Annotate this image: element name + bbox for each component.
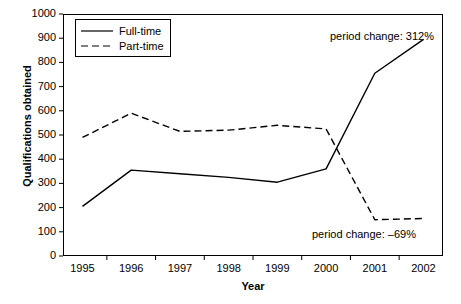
legend-item-1: Part-time — [80, 38, 164, 53]
chart-canvas — [0, 0, 461, 304]
chart-legend: Full-time Part-time — [75, 19, 171, 57]
x-axis-tick-labels: 19951996199719981999200020012002 — [0, 262, 461, 282]
series-line-full-time — [82, 39, 423, 206]
annotation-full-time-period-change: period change: 312% — [330, 30, 434, 42]
legend-label-1: Part-time — [119, 40, 164, 52]
series-line-part-time — [82, 113, 423, 219]
legend-swatch-dashed-icon — [80, 40, 114, 52]
chart-figure: 01002003004005006007008009001000 Qualifi… — [0, 0, 461, 304]
x-tick-label: 2002 — [394, 262, 454, 274]
legend-item-0: Full-time — [80, 23, 164, 38]
annotation-part-time-period-change: period change: –69% — [312, 228, 416, 240]
legend-label-0: Full-time — [119, 25, 161, 37]
legend-swatch-solid-icon — [80, 25, 114, 37]
x-axis-title: Year — [63, 280, 443, 292]
